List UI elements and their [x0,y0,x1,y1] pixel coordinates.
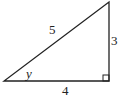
right-angle-marker [103,75,109,81]
horizontal-leg-label: 4 [62,83,69,96]
hypotenuse-label: 5 [49,22,56,37]
vertical-leg-label: 3 [111,33,118,48]
angle-label: y [24,66,32,81]
triangle [4,2,109,81]
triangle-diagram: 5 3 4 y [0,0,118,96]
